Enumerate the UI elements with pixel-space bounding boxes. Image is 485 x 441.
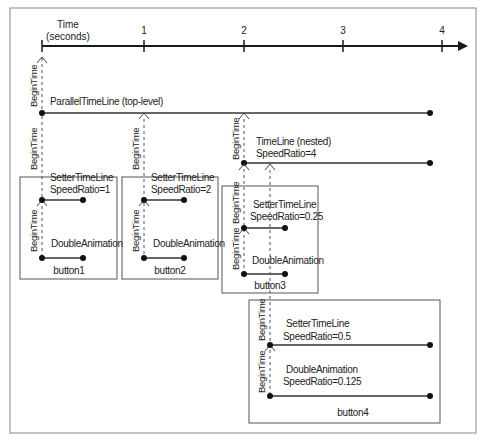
button4-animation-label: DoubleAnimation <box>286 364 358 375</box>
svg-text:BeginTime: BeginTime <box>230 182 241 224</box>
timeline-diagram: Time (seconds) 1 2 3 4 BeginTime Paralle… <box>0 0 485 441</box>
tick-label-1: 1 <box>141 25 147 36</box>
button2-setter-label: SetterTimeLine <box>151 172 215 183</box>
svg-text:BeginTime: BeginTime <box>256 351 267 393</box>
button4-animation-speed: SpeedRatio=0.125 <box>283 376 362 387</box>
nested-timeline-speed: SpeedRatio=4 <box>256 148 317 159</box>
button1-animation-label: DoubleAnimation <box>51 238 123 249</box>
svg-text:BeginTime: BeginTime <box>256 299 267 341</box>
svg-text:BeginTime: BeginTime <box>130 210 141 252</box>
button2-name: button2 <box>154 265 186 276</box>
button4-setter-speed: SpeedRatio=0.5 <box>283 331 352 342</box>
svg-text:BeginTime: BeginTime <box>230 228 241 270</box>
tick-label-4: 4 <box>439 25 445 36</box>
button4-name: button4 <box>337 407 369 418</box>
tick-label-3: 3 <box>340 25 346 36</box>
axis-title-units: (seconds) <box>46 31 90 42</box>
button4-setter-label: SetterTimeLine <box>286 318 350 329</box>
svg-text:BeginTime: BeginTime <box>28 210 39 252</box>
button1-setter-label: SetterTimeLine <box>50 172 114 183</box>
button2-animation-label: DoubleAnimation <box>153 238 225 249</box>
button3-setter-speed: SpeedRatio=0.25 <box>250 211 324 222</box>
svg-text:BeginTime: BeginTime <box>28 65 39 107</box>
tick-label-2: 2 <box>241 25 247 36</box>
parallel-timeline-label: ParallelTimeLine (top-level) <box>50 96 163 107</box>
nested-timeline-label: TimeLine (nested) <box>256 136 331 147</box>
svg-text:BeginTime: BeginTime <box>230 118 241 160</box>
svg-text:BeginTime: BeginTime <box>28 128 39 170</box>
button3-animation-label: DoubleAnimation <box>252 255 324 266</box>
axis-title: Time <box>57 19 79 30</box>
button1-setter-speed: SpeedRatio=1 <box>50 184 111 195</box>
button2-setter-speed: SpeedRatio=2 <box>151 184 212 195</box>
button1-name: button1 <box>53 265 85 276</box>
svg-text:BeginTime: BeginTime <box>130 128 141 170</box>
button3-setter-label: SetterTimeLine <box>253 199 317 210</box>
